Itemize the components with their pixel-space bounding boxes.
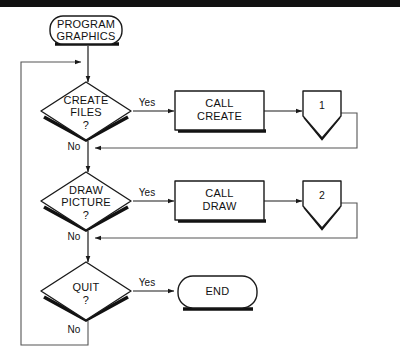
end-terminal-label: END bbox=[206, 285, 230, 297]
node-decision-quit: QUIT ? bbox=[41, 262, 131, 320]
branch-label-create-yes: Yes bbox=[139, 97, 155, 108]
node-process-call-draw: CALL DRAW bbox=[175, 181, 266, 221]
decision-create-line3: ? bbox=[83, 119, 89, 131]
decision-quit-line2: ? bbox=[83, 294, 89, 306]
node-process-call-create: CALL CREATE bbox=[175, 91, 266, 131]
branch-label-draw-no: No bbox=[68, 231, 81, 242]
decision-draw-line2: PICTURE bbox=[61, 196, 111, 208]
node-connector-two: 2 bbox=[303, 181, 341, 228]
decision-draw-line1: DRAW bbox=[69, 184, 103, 196]
start-terminal-line2: GRAPHICS bbox=[56, 30, 115, 42]
decision-create-line2: FILES bbox=[70, 106, 102, 118]
decision-create-line1: CREATE bbox=[63, 94, 108, 106]
process-draw-line1: CALL bbox=[205, 187, 233, 199]
flowchart-page: PROGRAM GRAPHICS CREATE FILES ? CALL CRE… bbox=[0, 0, 400, 363]
decision-quit-line1: QUIT bbox=[72, 281, 99, 293]
process-create-line2: CREATE bbox=[197, 110, 242, 122]
process-draw-line2: DRAW bbox=[203, 200, 237, 212]
decision-draw-line3: ? bbox=[83, 209, 89, 221]
node-decision-draw-picture: DRAW PICTURE ? bbox=[41, 172, 131, 230]
branch-label-draw-yes: Yes bbox=[139, 187, 155, 198]
connector-two-label: 2 bbox=[319, 189, 325, 201]
connector-one-label: 1 bbox=[319, 99, 325, 111]
flowchart-canvas: PROGRAM GRAPHICS CREATE FILES ? CALL CRE… bbox=[0, 0, 400, 363]
process-create-line1: CALL bbox=[205, 97, 233, 109]
branch-label-quit-yes: Yes bbox=[139, 277, 155, 288]
node-connector-one: 1 bbox=[303, 91, 341, 138]
node-start-terminal: PROGRAM GRAPHICS bbox=[50, 16, 122, 44]
node-decision-create-files: CREATE FILES ? bbox=[41, 82, 131, 140]
start-terminal-line1: PROGRAM bbox=[57, 18, 115, 30]
branch-label-create-no: No bbox=[68, 141, 81, 152]
node-end-terminal: END bbox=[178, 276, 257, 309]
branch-label-quit-no: No bbox=[68, 324, 81, 335]
